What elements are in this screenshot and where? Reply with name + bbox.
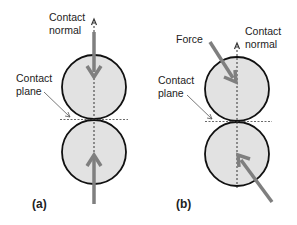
force-label: Force — [176, 33, 203, 45]
contact-plane-label-line2: plane — [16, 85, 42, 97]
panel-label-b: (b) — [176, 197, 191, 211]
contact-plane-label-line1: Contact — [158, 74, 194, 86]
contact-plane-label-line1: Contact — [16, 72, 52, 84]
contact-normal-label-line1: Contact — [49, 11, 85, 23]
contact-normal-label-line2: normal — [245, 38, 277, 50]
contact-normal-label-line1: Contact — [245, 25, 281, 37]
contact-plane-label-line2: plane — [158, 87, 184, 99]
panel-b: Force Contact normal Contact plane (b) — [158, 25, 281, 211]
panel-label-a: (a) — [32, 197, 47, 211]
contact-normal-label-line2: normal — [49, 24, 81, 36]
contact-diagram: Contact normal Contact plane (a) Force C… — [0, 0, 297, 225]
panel-a: Contact normal Contact plane (a) — [16, 11, 128, 211]
